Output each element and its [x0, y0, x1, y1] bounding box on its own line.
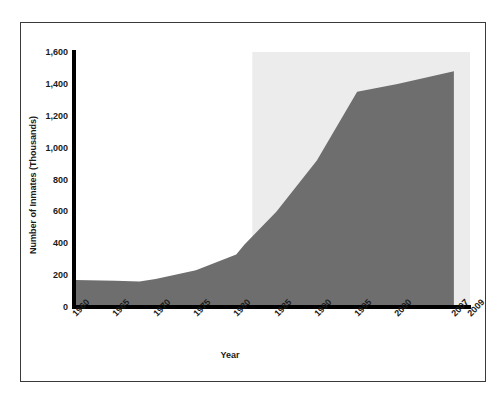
x-tick-label: 1970 [152, 298, 173, 319]
x-tick-label: 1995 [353, 298, 374, 319]
x-tick-label: 1965 [111, 298, 132, 319]
x-tick-label: 2009 [466, 298, 487, 319]
x-tick-label: 1980 [232, 298, 253, 319]
x-tick-label: 1990 [313, 298, 334, 319]
x-tick-label: 1975 [192, 298, 213, 319]
x-axis-tick-labels: 1960196519701975198019851990199520002007… [0, 0, 501, 395]
x-tick-label: 1960 [71, 298, 92, 319]
x-axis-title: Year [75, 350, 385, 360]
x-tick-label: 1985 [273, 298, 294, 319]
y-axis-title: Number of Inmates (Thousands) [28, 90, 38, 280]
x-tick-label: 2000 [393, 298, 414, 319]
chart-figure: 02004006008001,0001,2001,4001,600 196019… [0, 0, 501, 395]
